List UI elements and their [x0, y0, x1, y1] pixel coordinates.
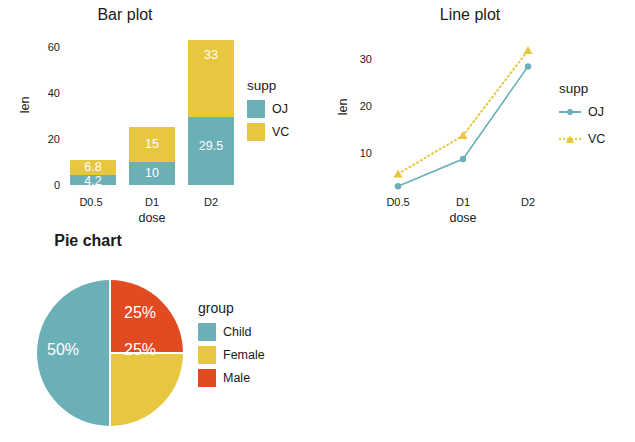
line-plot-legend-label-oj: OJ	[588, 105, 604, 119]
line-marker-oj-d1[interactable]	[460, 156, 466, 162]
pie-slice-label-male: 25%	[110, 304, 170, 322]
line-plot-legend-title: supp	[559, 81, 605, 96]
line-plot-legend-item-oj[interactable]: OJ	[559, 103, 605, 121]
figure-caption	[24, 436, 624, 442]
pie-chart-title: Pie chart	[18, 232, 158, 250]
line-plot-legend: supp OJ VC	[559, 81, 605, 153]
bar-segment-vc-d05[interactable]: 6.8	[70, 160, 116, 176]
bar-segment-label-vc-d1: 15	[129, 137, 175, 151]
bar-plot-legend-item-oj[interactable]: OJ	[247, 100, 289, 118]
bar-plot-ytick-40: 40	[30, 87, 60, 99]
legend-line-key-vc	[559, 130, 581, 148]
pie-chart-legend: group Child Female Male	[198, 300, 265, 392]
line-plot-legend-item-vc[interactable]: VC	[559, 130, 605, 148]
bar-plot-x-axis-label: dose	[68, 211, 236, 225]
bar-plot-panel: Bar plot len 0 20 40 60 4.2 6.8 10 15	[0, 0, 320, 228]
bar-plot-legend-title: supp	[247, 78, 289, 93]
pie-chart-legend-title: group	[198, 300, 265, 316]
bar-plot-legend-label-oj: OJ	[272, 102, 288, 116]
bar-segment-oj-d1[interactable]: 10	[129, 162, 175, 185]
line-marker-oj-d05[interactable]	[395, 183, 401, 189]
line-plot-xtick-d05: D0.5	[369, 196, 427, 208]
bar-plot-ytick-0: 0	[30, 179, 60, 191]
legend-swatch-male	[198, 369, 216, 387]
pie-slice-label-female: 25%	[110, 341, 170, 359]
pie-slice-label-child: 50%	[28, 341, 98, 359]
pie-chart-legend-label-child: Child	[223, 325, 252, 339]
legend-swatch-female	[198, 346, 216, 364]
line-series-oj[interactable]	[398, 66, 528, 186]
bar-group-d1[interactable]: 10 15	[129, 127, 175, 185]
line-plot-x-axis-label: dose	[398, 211, 528, 225]
line-plot-panel: Line plot len 10 20 30 D0.5 D1 D2 dose s…	[320, 0, 635, 228]
line-series-vc[interactable]	[398, 51, 528, 175]
legend-swatch-vc	[247, 123, 265, 141]
bar-segment-label-oj-d1: 10	[129, 166, 175, 180]
bar-group-d2[interactable]: 29.5 33	[188, 40, 234, 185]
bar-segment-label-vc-d05: 6.8	[70, 160, 116, 174]
bar-plot-title: Bar plot	[0, 6, 250, 24]
bar-plot-area: 4.2 6.8 10 15 29.5 33	[68, 30, 236, 185]
pie-chart-legend-label-male: Male	[223, 371, 250, 385]
bar-group-d05[interactable]: 4.2 6.8	[70, 160, 116, 186]
line-marker-vc-d05[interactable]	[393, 170, 402, 178]
pie-chart-legend-item-female[interactable]: Female	[198, 346, 265, 364]
legend-swatch-child	[198, 323, 216, 341]
legend-line-key-oj	[559, 103, 581, 121]
bar-plot-ytick-60: 60	[30, 41, 60, 53]
bar-plot-xtick-d05: D0.5	[62, 196, 120, 208]
line-plot-xtick-d1: D1	[434, 196, 492, 208]
line-marker-vc-d2[interactable]	[523, 46, 532, 54]
bar-segment-vc-d2[interactable]: 33	[188, 40, 234, 117]
bar-plot-legend-label-vc: VC	[272, 125, 289, 139]
figure-canvas: { "palette": { "teal": "#6BAFB7", "yello…	[0, 0, 635, 442]
pie-chart-legend-item-child[interactable]: Child	[198, 323, 265, 341]
bar-plot-ytick-20: 20	[30, 133, 60, 145]
bar-plot-legend-item-vc[interactable]: VC	[247, 123, 289, 141]
bar-segment-label-oj-d2: 29.5	[188, 139, 234, 153]
bar-plot-xtick-d2: D2	[182, 196, 240, 208]
line-plot-xtick-d2: D2	[499, 196, 557, 208]
bar-segment-label-oj-d05: 4.2	[70, 174, 116, 188]
bar-segment-oj-d05[interactable]: 4.2	[70, 175, 116, 185]
line-marker-oj-d2[interactable]	[525, 63, 531, 69]
bar-plot-legend: supp OJ VC	[247, 78, 289, 146]
legend-swatch-oj	[247, 100, 265, 118]
pie-slice-female[interactable]	[110, 353, 183, 426]
bar-plot-xtick-d1: D1	[123, 196, 181, 208]
pie-chart-panel: Pie chart 50% 25% 25% group Child Female…	[0, 228, 330, 428]
pie-chart-legend-item-male[interactable]: Male	[198, 369, 265, 387]
bar-segment-label-vc-d2: 33	[188, 48, 234, 62]
bar-segment-vc-d1[interactable]: 15	[129, 127, 175, 162]
pie-chart-legend-label-female: Female	[223, 348, 265, 362]
bar-segment-oj-d2[interactable]: 29.5	[188, 117, 234, 185]
line-plot-legend-label-vc: VC	[588, 132, 605, 146]
